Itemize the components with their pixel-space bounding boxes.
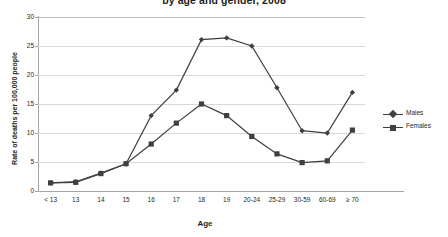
square-marker-icon	[224, 113, 229, 118]
y-tick-label: 30	[14, 13, 34, 20]
y-tick-label: 25	[14, 42, 34, 49]
chart-title: by age and gender, 2008	[0, 0, 448, 6]
square-marker-icon	[350, 128, 355, 133]
square-marker-icon	[73, 180, 78, 185]
y-tick-mark	[35, 162, 38, 163]
legend-label: Males	[406, 109, 423, 116]
y-tick-mark	[35, 133, 38, 134]
chart-figure: by age and gender, 2008 Rate of deaths p…	[0, 0, 448, 237]
square-marker-icon	[390, 125, 396, 131]
diamond-marker-icon	[224, 35, 229, 40]
y-tick-label: 20	[14, 71, 34, 78]
y-tick-label: 10	[14, 129, 34, 136]
legend-label: Females	[406, 122, 431, 129]
diamond-marker-icon	[350, 90, 355, 95]
square-marker-icon	[123, 161, 128, 166]
data-series-layer	[38, 17, 365, 191]
series-line-males	[51, 38, 353, 183]
square-marker-icon	[199, 101, 204, 106]
y-tick-mark	[35, 104, 38, 105]
square-marker-icon	[249, 134, 254, 139]
y-tick-label: 15	[14, 100, 34, 107]
plot-area	[38, 17, 365, 191]
square-marker-icon	[48, 180, 53, 185]
square-marker-icon	[274, 151, 279, 156]
square-marker-icon	[174, 121, 179, 126]
diamond-marker-icon	[325, 130, 330, 135]
square-marker-icon	[300, 160, 305, 165]
diamond-marker-icon	[249, 43, 254, 48]
x-axis-title: Age	[0, 219, 410, 228]
x-axis-line	[38, 191, 404, 192]
square-marker-icon	[325, 158, 330, 163]
diamond-marker-icon	[389, 110, 397, 118]
diamond-marker-icon	[199, 37, 204, 42]
y-tick-mark	[35, 46, 38, 47]
square-marker-icon	[149, 141, 154, 146]
diamond-marker-icon	[299, 128, 304, 133]
y-tick-label: 5	[14, 158, 34, 165]
y-tick-label: 0	[14, 187, 34, 194]
x-tick-label: ≥ 70	[332, 196, 372, 203]
diamond-marker-icon	[274, 85, 279, 90]
series-line-females	[51, 104, 353, 183]
y-tick-mark	[35, 75, 38, 76]
square-marker-icon	[98, 171, 103, 176]
y-tick-mark	[35, 17, 38, 18]
y-tick-mark	[35, 191, 38, 192]
